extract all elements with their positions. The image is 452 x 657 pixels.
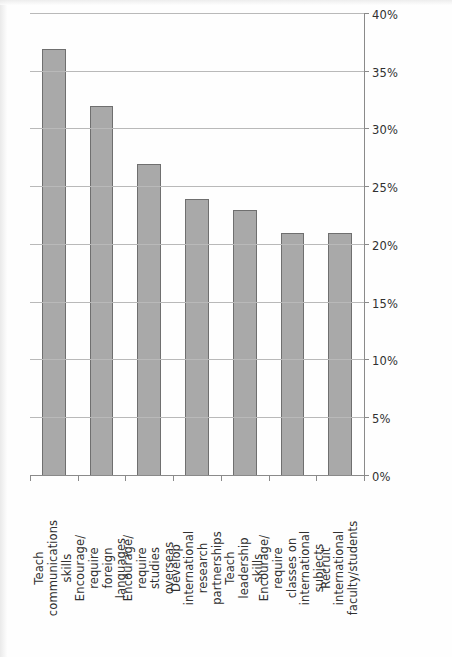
category-label-line: Teach	[33, 488, 47, 648]
category-label-line: Encourage/	[74, 488, 88, 648]
category-label: Recruitinternationalfaculty/students	[320, 488, 361, 648]
plot-area	[30, 14, 364, 476]
category-separator-tick	[316, 476, 317, 481]
rotated-chart-container: TeachcommunicationsskillsEncourage/requi…	[24, 8, 428, 648]
category-label-line: research	[197, 488, 211, 648]
category-axis-line	[364, 14, 365, 476]
bar-row	[185, 14, 209, 476]
scan-edge-shading-top	[0, 0, 452, 5]
category-label-line: skills	[61, 488, 75, 648]
category-label-line: international	[299, 488, 313, 648]
gridline	[30, 71, 364, 72]
bar[interactable]	[233, 210, 257, 476]
value-tick-label: 30%	[372, 125, 398, 137]
category-label-line: foreign	[102, 488, 116, 648]
bar-row	[137, 14, 161, 476]
bar-row	[281, 14, 305, 476]
bar[interactable]	[328, 233, 352, 476]
category-label-line: Teach	[224, 488, 238, 648]
axis-tick	[364, 129, 369, 130]
axis-tick	[364, 244, 369, 245]
value-tick-label: 20%	[372, 240, 398, 252]
value-tick-label: 40%	[372, 9, 398, 21]
value-tick-label: 25%	[372, 182, 398, 194]
value-tick-label: 5%	[372, 413, 391, 425]
category-label: Developinternationalresearchpartnerships	[170, 488, 224, 648]
bar-chart: TeachcommunicationsskillsEncourage/requi…	[24, 8, 428, 648]
category-label-line: classes on	[286, 488, 300, 648]
value-tick-label: 10%	[372, 356, 398, 368]
bar-row	[90, 14, 114, 476]
bar[interactable]	[281, 233, 305, 476]
category-separator-tick	[125, 476, 126, 481]
gridline	[30, 417, 364, 418]
category-label-line: Recruit	[320, 488, 334, 648]
bar-row	[233, 14, 257, 476]
category-label-line: Develop	[170, 488, 184, 648]
bar-row	[328, 14, 352, 476]
chart-page: TeachcommunicationsskillsEncourage/requi…	[0, 0, 452, 657]
category-label-line: require	[88, 488, 102, 648]
gridline	[30, 129, 364, 130]
category-label-line: Encourage/	[122, 488, 136, 648]
category-label: Teachcommunicationsskills	[33, 488, 74, 648]
bar-row	[42, 14, 66, 476]
axis-tick	[364, 417, 369, 418]
category-label-line: communications	[47, 488, 61, 648]
value-tick-label: 0%	[372, 471, 391, 483]
axis-tick	[364, 302, 369, 303]
bar[interactable]	[90, 106, 114, 476]
category-separator-tick	[269, 476, 270, 481]
category-label-line: studies	[149, 488, 163, 648]
bar[interactable]	[137, 164, 161, 476]
category-label-line: require	[136, 488, 150, 648]
category-label-line: international	[183, 488, 197, 648]
bar[interactable]	[42, 49, 66, 476]
category-label-line: leadership	[238, 488, 252, 648]
value-axis-tick-labels: 0%5%10%15%20%25%30%35%40%	[372, 14, 420, 476]
gridline	[30, 360, 364, 361]
category-label-line: faculty/students	[347, 488, 361, 648]
category-separator-tick	[364, 476, 365, 481]
category-label: Encourage/requireclasses oninternational…	[258, 488, 326, 648]
value-tick-label: 15%	[372, 298, 398, 310]
bar-rows	[30, 14, 364, 476]
category-separator-tick	[173, 476, 174, 481]
category-label-line: partnerships	[211, 488, 225, 648]
axis-tick	[364, 13, 369, 14]
axis-tick	[364, 186, 369, 187]
bar[interactable]	[185, 199, 209, 476]
gridline	[30, 244, 364, 245]
axis-tick	[364, 71, 369, 72]
category-axis-labels: TeachcommunicationsskillsEncourage/requi…	[30, 482, 364, 648]
gridline	[30, 186, 364, 187]
scan-edge-shading-left	[0, 0, 7, 657]
gridline	[30, 13, 364, 14]
gridline	[30, 475, 364, 476]
axis-tick	[364, 475, 369, 476]
axis-tick	[364, 360, 369, 361]
category-separator-tick	[30, 476, 31, 481]
gridline	[30, 302, 364, 303]
category-separator-tick	[78, 476, 79, 481]
category-label-line: require	[272, 488, 286, 648]
category-separator-tick	[221, 476, 222, 481]
category-label-line: international	[333, 488, 347, 648]
value-tick-label: 35%	[372, 67, 398, 79]
category-label-line: Encourage/	[258, 488, 272, 648]
